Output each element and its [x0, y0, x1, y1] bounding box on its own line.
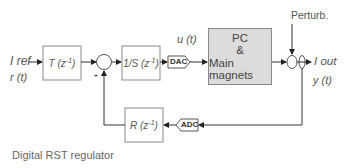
block-s-close: ): [156, 58, 159, 69]
block-t: T (z-1): [43, 57, 81, 69]
perturbation-label: Perturb.: [291, 10, 328, 21]
output-label-iout: I out: [314, 56, 336, 68]
plant-line3: Main magnets: [209, 57, 271, 81]
block-t-label: T (z: [49, 58, 66, 69]
block-t-close: ): [72, 58, 75, 69]
input-label-iref: I ref: [10, 55, 31, 67]
diagram-caption: Digital RST regulator: [12, 150, 114, 161]
block-r-label: R (z: [130, 120, 148, 131]
input-label-rt: r (t): [10, 72, 27, 83]
block-s-label: 1/S (z: [123, 58, 149, 69]
plant-line2: &: [236, 44, 244, 56]
minus-sign: -: [94, 69, 98, 80]
dac-label: DAC: [170, 58, 187, 66]
block-s: 1/S (z-1): [122, 57, 160, 69]
output-label-yt: y (t): [313, 75, 332, 86]
plant-line1: PC: [232, 32, 248, 44]
diagram-wires: [0, 0, 346, 168]
control-signal-label: u (t): [177, 34, 197, 45]
block-r: R (z-1): [125, 119, 163, 131]
adc-label: ADC: [181, 121, 198, 129]
plant-block: PC & Main magnets: [208, 28, 272, 85]
block-r-close: ): [155, 120, 158, 131]
